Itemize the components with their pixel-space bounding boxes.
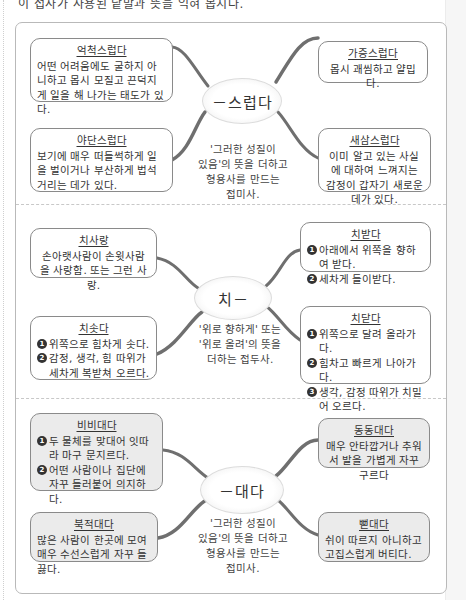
word-title: 치사랑 [37,233,150,248]
definition-item: 2세차게 들이받다. [307,272,424,287]
word-definition: 몹시 괘씸하고 얄밉다. [325,62,421,91]
word-title: 치솟다 [37,321,150,336]
word-card-chibatda: 치받다 1아래에서 위쪽을 향하여 받다. 2세차게 들이받다. [300,222,431,272]
word-title: 새삼스럽다 [325,133,424,148]
word-card-ppeotdaeda: 뻗대다 쉬이 따르지 아니하고 고집스럽게 버티다. [318,512,430,562]
number-2-icon: 2 [37,465,47,475]
word-definition: 어떤 어려움에도 굴하지 아니하고 몹시 모질고 끈덕지게 일을 해 나가는 태… [37,59,166,117]
hub-suffix-daeda: －대다 [200,466,284,514]
hub-label: －대다 [219,480,265,501]
word-card-chisarang: 치사랑 손아랫사람이 손윗사람을 사랑함. 또는 그런 사랑. [30,228,157,278]
hub-description: '그러한 성질이 있음'의 뜻을 더하고 형용사를 만드는 접미사. [184,142,302,202]
word-card-saesam: 새삼스럽다 이미 알고 있는 사실에 대하여 느껴지는 감정이 갑자기 새로운 … [318,128,431,192]
word-title: 북적대다 [37,517,151,532]
desc-line: 더하는 접두사. [180,352,300,367]
desc-line: '그러한 성질이 [184,516,302,531]
desc-line: 있음'의 뜻을 더하고 [184,157,302,172]
number-1-icon: 1 [37,339,47,349]
word-title: 동동대다 [325,423,423,438]
desc-line: 있음'의 뜻을 더하고 [184,531,302,546]
word-card-chisotda: 치솟다 1위쪽으로 힘차게 솟다. 2감정, 생각, 힘 따위가 세차게 복받쳐… [30,316,157,380]
word-title: 비비대다 [37,418,156,433]
definition-item: 2힘차고 빠르게 나아가다. [307,356,424,385]
word-definition: 이미 알고 있는 사실에 대하여 느껴지는 감정이 갑자기 새로운 데가 있다. [325,149,424,207]
word-definition: 쉬이 따르지 아니하고 고집스럽게 버티다. [325,533,423,562]
definition-item: 3생각, 감정 따위가 치밀어 오르다. [307,385,424,414]
word-card-eokcheok: 억척스럽다 어떤 어려움에도 굴하지 아니하고 몹시 모질고 끈덕지게 일을 해… [30,38,173,102]
definition-list: 1위쪽으로 달려 올라가다. 2힘차고 빠르게 나아가다. 3생각, 감정 따위… [307,327,424,414]
definition-item: 2감정, 생각, 힘 따위가 세차게 복받쳐 오르다. [37,351,150,380]
word-card-bukjeokdaeda: 북적대다 많은 사람이 한곳에 모여 매우 수선스럽게 자꾸 들끓다. [30,512,158,562]
number-2-icon: 2 [307,274,317,284]
word-card-bibidaeda: 비비대다 1두 물체를 맞대어 잇따라 마구 문지르다. 2어떤 사람이나 집단… [30,413,163,491]
hub-prefix-chi: 치－ [194,276,272,320]
number-1-icon: 1 [37,436,47,446]
desc-line: 접미사. [184,187,302,202]
word-title: 뻗대다 [325,517,423,532]
hub-description: '위로 향하게' 또는 '위로 올려'의 뜻을 더하는 접두사. [180,322,300,367]
word-card-yadan: 야단스럽다 보기에 매우 떠들썩하게 일을 벌이거나 부산하게 법석거리는 데가… [30,128,173,192]
word-title: 야단스럽다 [37,133,166,148]
hub-label: －스럽다 [212,91,273,112]
desc-line: '위로 향하게' 또는 [180,322,300,337]
definition-item: 1두 물체를 맞대어 잇따라 마구 문지르다. [37,434,156,463]
word-title: 치닫다 [307,311,424,326]
number-2-icon: 2 [37,353,47,363]
desc-line: '위로 올려'의 뜻을 [180,337,300,352]
hub-description: '그러한 성질이 있음'의 뜻을 더하고 형용사를 만드는 접미사. [184,516,302,576]
definition-list: 1위쪽으로 힘차게 솟다. 2감정, 생각, 힘 따위가 세차게 복받쳐 오르다… [37,337,150,381]
number-2-icon: 2 [307,358,317,368]
word-definition: 보기에 매우 떠들썩하게 일을 벌이거나 부산하게 법석거리는 데가 있다. [37,149,166,193]
word-card-chidatda: 치닫다 1위쪽으로 달려 올라가다. 2힘차고 빠르게 나아가다. 3생각, 감… [300,306,431,384]
number-1-icon: 1 [307,329,317,339]
word-definition: 많은 사람이 한곳에 모여 매우 수선스럽게 자꾸 들끓다. [37,533,151,577]
word-card-dongdongdaeda: 동동대다 매우 안타깝거나 추워서 발을 가볍게 자꾸 구르다 [318,418,430,468]
definition-item: 2어떤 사람이나 집단에 자꾸 들러붙어 의지하다. [37,463,156,507]
word-title: 가증스럽다 [325,46,421,61]
word-title: 억척스럽다 [37,43,166,58]
desc-line: 형용사를 만드는 [184,546,302,561]
word-title: 치받다 [307,227,424,242]
desc-line: 형용사를 만드는 [184,172,302,187]
definition-list: 1아래에서 위쪽을 향하여 받다. 2세차게 들이받다. [307,243,424,287]
hub-suffix-seureopda: －스럽다 [202,78,282,124]
word-definition: 매우 안타깝거나 추워서 발을 가볍게 자꾸 구르다 [325,439,423,483]
hub-label: 치－ [218,288,249,309]
desc-line: '그러한 성질이 [184,142,302,157]
definition-item: 1위쪽으로 힘차게 솟다. [37,337,150,352]
word-card-gajeung: 가증스럽다 몹시 괘씸하고 얄밉다. [318,41,428,83]
word-definition: 손아랫사람이 손윗사람을 사랑함. 또는 그런 사랑. [37,249,150,293]
definition-list: 1두 물체를 맞대어 잇따라 마구 문지르다. 2어떤 사람이나 집단에 자꾸 … [37,434,156,507]
definition-item: 1아래에서 위쪽을 향하여 받다. [307,243,424,272]
number-3-icon: 3 [307,387,317,397]
definition-item: 1위쪽으로 달려 올라가다. [307,327,424,356]
desc-line: 접미사. [184,561,302,576]
number-1-icon: 1 [307,245,317,255]
